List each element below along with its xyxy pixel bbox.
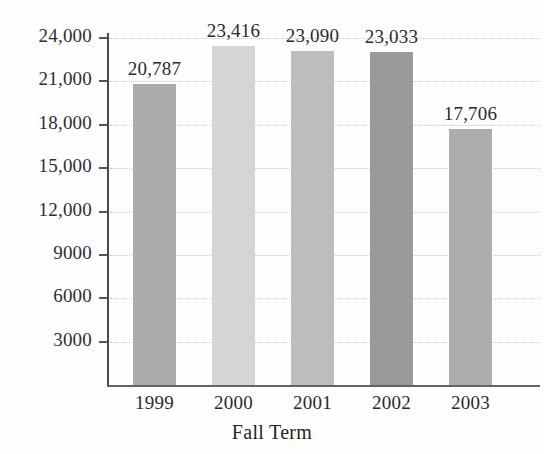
bar-1999: [133, 84, 176, 385]
y-axis-tick-label: 15,000: [4, 155, 92, 177]
x-axis-line: [107, 385, 540, 387]
bar-2002: [370, 52, 413, 385]
bar-value-label-1999: 20,787: [110, 58, 200, 80]
bar-chart: 30006000900012,00015,00018,00021,00024,0…: [0, 0, 544, 454]
x-axis-label-2002: 2002: [347, 392, 437, 414]
y-axis-line: [107, 33, 109, 387]
bar-2000: [212, 46, 255, 385]
y-axis-tick-label: 3000: [4, 329, 92, 351]
x-axis-label-1999: 1999: [110, 392, 200, 414]
x-axis-label-2001: 2001: [268, 392, 358, 414]
x-axis-label-2000: 2000: [189, 392, 279, 414]
y-axis-tick-label: 24,000: [4, 25, 92, 47]
bar-value-label-2003: 17,706: [426, 103, 516, 125]
y-axis-tick-label: 6000: [4, 285, 92, 307]
y-axis-tick-label: 21,000: [4, 68, 92, 90]
bar-value-label-2002: 23,033: [347, 26, 437, 48]
y-axis-tick-label: 12,000: [4, 199, 92, 221]
y-axis-tick-label: 9000: [4, 242, 92, 264]
bar-value-label-2001: 23,090: [268, 25, 358, 47]
y-axis-tick-label: 18,000: [4, 112, 92, 134]
bar-2003: [449, 129, 492, 385]
bar-2001: [291, 51, 334, 385]
x-axis-label-2003: 2003: [426, 392, 516, 414]
x-axis-title: Fall Term: [0, 421, 544, 444]
bar-value-label-2000: 23,416: [189, 20, 279, 42]
